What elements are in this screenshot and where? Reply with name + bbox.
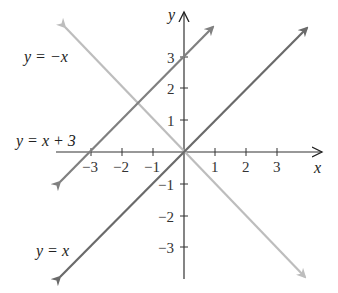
- x-tick-label: −3: [82, 159, 98, 175]
- y-tick-label: −3: [158, 240, 174, 256]
- x-tick-label: 2: [242, 159, 250, 175]
- y-tick-label: −2: [158, 209, 174, 225]
- x-tick-label: −1: [144, 159, 160, 175]
- label-y-x-plus-3: y = x + 3: [14, 132, 76, 150]
- x-tick-label: 1: [211, 159, 219, 175]
- x-axis-label: x: [313, 159, 321, 176]
- x-tick-label: −2: [113, 159, 129, 175]
- graph: −3 −2 −1 1 2 3 3 2 1 −1 −2 −3 x y y = −x…: [0, 0, 338, 293]
- y-tick-label: 3: [167, 50, 175, 66]
- x-tick-label: 3: [273, 159, 281, 175]
- y-tick-label: 2: [167, 81, 175, 97]
- y-tick-label: −1: [158, 177, 174, 193]
- y-tick-label: 1: [167, 113, 175, 129]
- label-y-x: y = x: [34, 242, 69, 260]
- label-y-neg-x: y = −x: [22, 48, 68, 66]
- y-axis-label: y: [166, 6, 176, 24]
